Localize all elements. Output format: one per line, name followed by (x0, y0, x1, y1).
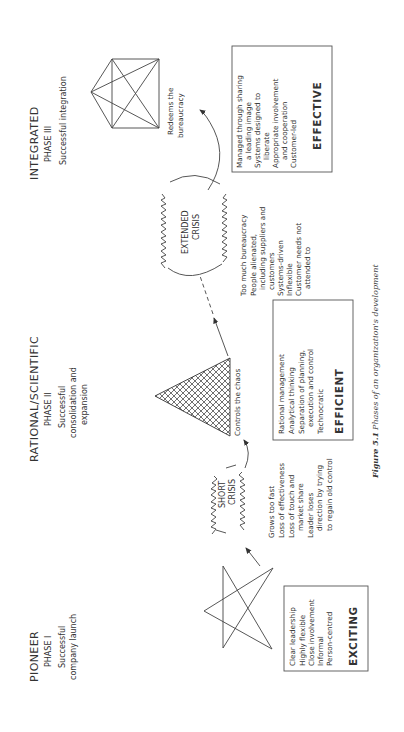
pentagram-star-icon (204, 566, 273, 649)
arrow-to-short-crisis (246, 548, 260, 566)
phase-3-header: INTEGRATED PHASE III Successful integrat… (28, 76, 68, 180)
pioneer-label: EXCITING (347, 606, 359, 666)
rational-trait: Technocratic (316, 389, 325, 435)
pentagon-caption-line2: bureaucracy (176, 92, 185, 138)
phase-3-title: INTEGRATED (28, 106, 41, 180)
rational-box: Rational management Analytical thinking … (273, 300, 353, 440)
pioneer-trait: Highly flexible (298, 614, 307, 666)
phase-2-header: RATIONAL/SCIENTIFIC PHASE II Successful … (28, 336, 89, 462)
integrated-trait: liberate (262, 132, 271, 160)
short-crisis-label-line1: SHORT (218, 481, 227, 508)
pioneer-trait: Person-centred (325, 612, 334, 666)
phase-2-subtitle-line2: consolidation and (69, 367, 78, 438)
rational-trait: Analytical thinking (287, 367, 296, 434)
extended-crisis-label-line2: CRISIS (192, 214, 201, 240)
integrated-box: Managed through sharing a leading image … (232, 46, 332, 172)
extended-crisis: EXTENDED CRISIS (161, 175, 227, 275)
phase-2-subtitle-line1: Successful (58, 386, 67, 428)
extended-crisis-label-line1: EXTENDED (181, 210, 190, 254)
rational-trait: Separation of planning, (297, 350, 306, 434)
phase-2-title: RATIONAL/SCIENTIFIC (28, 336, 41, 462)
integrated-trait: a leading image (244, 102, 253, 160)
arrow-to-integrated (200, 110, 220, 190)
pioneer-trait: Close involvement (307, 599, 316, 666)
symptom: attended to (303, 247, 312, 289)
phase-1-subtitle-line2: company launch (69, 614, 78, 680)
pentagon-caption-line1: Redeems the (166, 87, 175, 135)
symptom: market share (296, 483, 305, 531)
triangle-caption: Controls the chaos (233, 369, 242, 436)
symptom: including suppliers and (258, 207, 267, 290)
figure-title: Phases of an organization's development (371, 264, 380, 431)
rational-trait: Rational management (277, 354, 286, 434)
phase-1-number: PHASE I (44, 636, 53, 667)
symptom: customers (267, 252, 276, 290)
symptom: Loss of effectiveness (277, 463, 286, 538)
phase-2-subtitle-line3: expansion (80, 384, 89, 425)
rational-label: EFFICIENT (333, 368, 345, 434)
pioneer-box: Clear leadership Highly flexible Close i… (284, 586, 368, 671)
symptom: direction by trying (315, 465, 324, 531)
extended-crisis-symptoms: Too much bureaucracy People alienated, i… (239, 207, 312, 297)
integrated-trait: Customer-led (289, 120, 298, 168)
short-crisis-symptoms: Grows too fast Loss of effectiveness Los… (267, 458, 334, 538)
integrated-trait: and cooperation (280, 101, 289, 160)
phase-1-subtitle-line1: Successful (58, 626, 67, 668)
dashed-connector (200, 276, 213, 314)
short-crisis: SHORT CRISIS (211, 465, 245, 534)
connected-pentagon-icon (91, 59, 159, 128)
symptom: Systems-driven (276, 240, 285, 296)
figure-number: Figure 5.1 (370, 432, 380, 479)
symptom: Loss of touch and (287, 475, 296, 538)
symptom: Grows too fast (267, 486, 276, 538)
integrated-label: EFFECTIVE (311, 82, 323, 150)
integrated-trait: Appropriate involvement (271, 78, 280, 168)
integrated-trait: Managed through sharing (235, 75, 244, 168)
symptom: Too much bureaucracy (239, 214, 248, 297)
symptom: Leader loses (306, 493, 315, 538)
figure-caption: Figure 5.1 Phases of an organization's d… (370, 264, 380, 479)
phase-2-number: PHASE II (44, 392, 53, 426)
phase-1-header: PIONEER PHASE I Successful company launc… (28, 614, 78, 682)
pioneer-trait: Clear leadership (288, 607, 297, 666)
symptom: Customer needs not (294, 223, 303, 296)
short-crisis-label-line2: CRISIS (228, 479, 237, 505)
symptom: to regain old control (325, 458, 334, 531)
phase-3-number: PHASE III (44, 126, 53, 162)
symptom: People alienated, (249, 234, 258, 296)
arrow-to-extended-crisis (214, 318, 228, 356)
phase-3-subtitle: Successful integration (59, 76, 68, 165)
phases-diagram: PIONEER PHASE I Successful company launc… (0, 0, 404, 732)
pioneer-trait: Informal (316, 636, 325, 666)
arrow-to-triangle (244, 440, 248, 468)
rational-trait: execution and control (306, 349, 315, 427)
integrated-trait: Systems designed to (253, 93, 262, 168)
phase-1-title: PIONEER (28, 631, 41, 682)
hatched-triangle-icon (155, 358, 230, 436)
symptom: Inflexible (285, 263, 294, 296)
